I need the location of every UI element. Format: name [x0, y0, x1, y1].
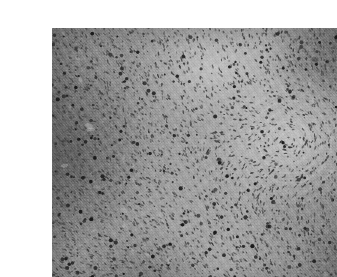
cell-nuclei-layer	[52, 28, 337, 277]
histopathology-micrograph: Histopathology micrograph of densely cel…	[52, 28, 337, 277]
page-root: Histopathology micrograph of densely cel…	[0, 0, 337, 277]
